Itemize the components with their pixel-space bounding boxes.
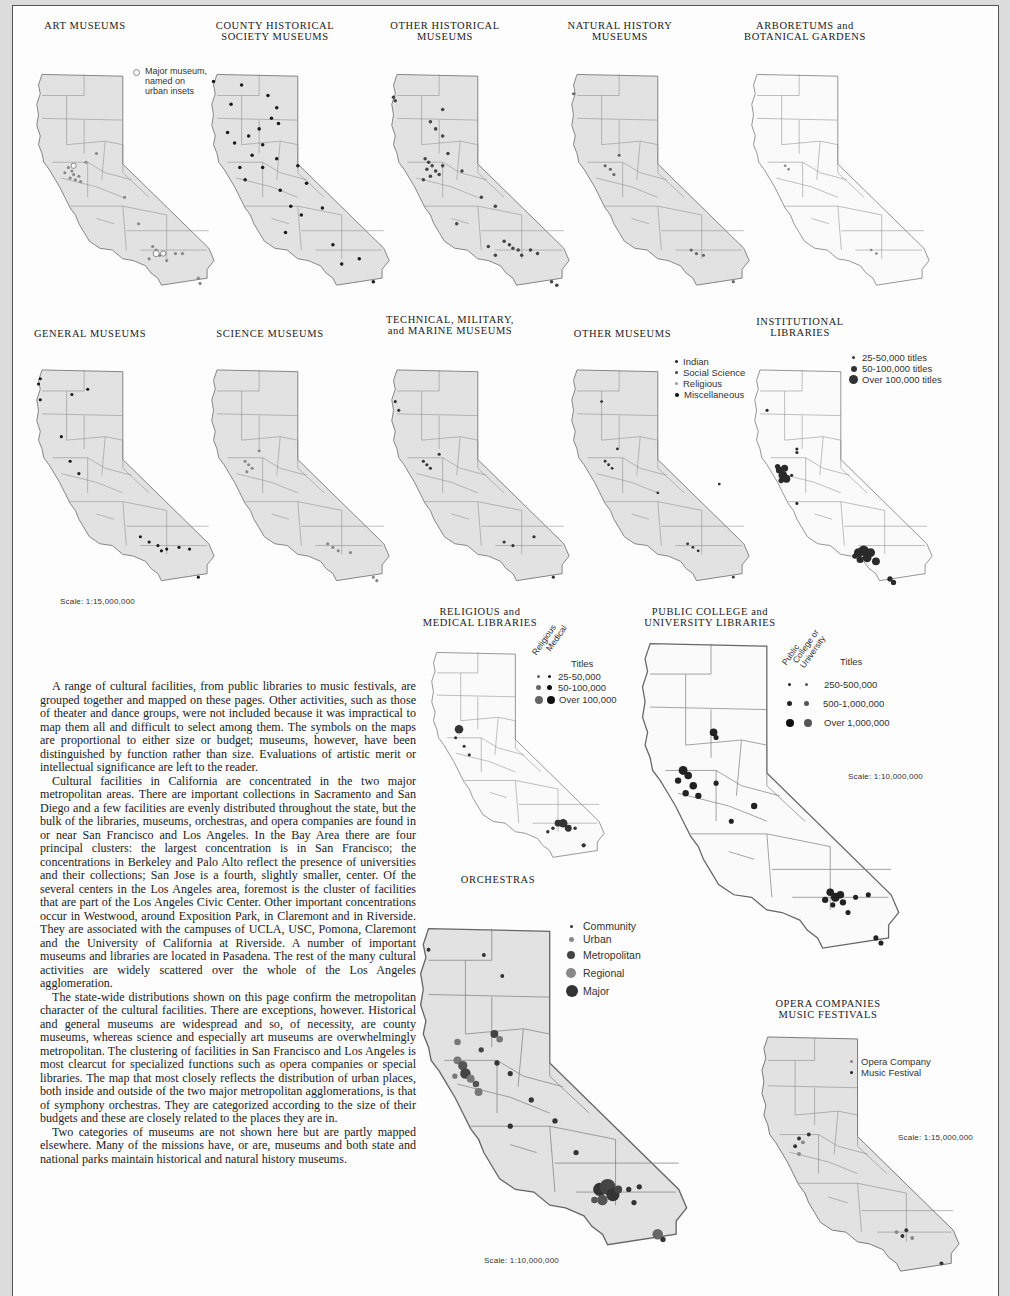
map-natural-history: NATURAL HISTORY MUSEUMS	[565, 20, 745, 320]
california-map	[418, 890, 688, 1290]
large-dot-icon	[849, 375, 858, 384]
medical-medium-dot-icon	[547, 685, 552, 690]
paragraph: Two categories of museums are not shown …	[40, 1126, 416, 1167]
social-science-dot-icon	[675, 371, 678, 374]
paragraph: A range of cultural facilities, from pub…	[40, 680, 416, 775]
california-map	[390, 42, 570, 322]
medical-small-dot-icon	[548, 675, 551, 678]
religious-medium-dot-icon	[536, 685, 541, 690]
map-art-museums: ART MUSEUMS Major museum, named on urban…	[30, 20, 210, 320]
scale-label: Scale: 1:10,000,000	[484, 1256, 559, 1265]
map-other-historical: OTHER HISTORICAL MUSEUMS	[385, 20, 565, 320]
map-opera-music-festivals: OPERA COMPANIES MUSIC FESTIVALS Opera Co…	[760, 996, 990, 1289]
legend-orchestras: Community Urban Metropolitan Regional Ma…	[566, 920, 641, 1000]
small-dot-icon	[852, 356, 855, 359]
map-county-historical: COUNTY HISTORICAL SOCIETY MUSEUMS	[205, 20, 385, 320]
scale-label: Scale: 1:15,000,000	[60, 597, 135, 606]
map-title: OTHER HISTORICAL MUSEUMS	[385, 20, 505, 42]
map-title: ARBORETUMS and BOTANICAL GARDENS	[735, 20, 875, 42]
religious-large-dot-icon	[535, 696, 543, 704]
miscellaneous-dot-icon	[675, 393, 679, 397]
map-title: OPERA COMPANIES MUSIC FESTIVALS	[758, 998, 898, 1020]
map-title: PUBLIC COLLEGE and UNIVERSITY LIBRARIES	[640, 606, 780, 628]
urban-dot-icon	[569, 937, 574, 942]
religious-dot-icon	[675, 382, 678, 385]
map-title: ART MUSEUMS	[30, 20, 140, 31]
college-small-dot-icon	[805, 683, 808, 686]
map-religious-medical-libraries: RELIGIOUS and MEDICAL LIBRARIES Religiou…	[425, 606, 635, 866]
community-dot-icon	[570, 925, 573, 928]
map-title: NATURAL HISTORY MUSEUMS	[560, 20, 680, 42]
legend-opera-music: Opera Company Music Festival	[850, 1056, 931, 1078]
california-map	[390, 340, 570, 615]
paragraph: The state-wide distributions shown on th…	[40, 991, 416, 1126]
map-title: GENERAL MUSEUMS	[30, 328, 150, 339]
california-map	[35, 340, 215, 615]
map-title: ORCHESTRAS	[438, 874, 558, 885]
map-title: COUNTY HISTORICAL SOCIETY MUSEUMS	[200, 20, 350, 42]
map-title: OTHER MUSEUMS	[565, 328, 680, 339]
california-map	[570, 42, 750, 322]
map-general-museums: GENERAL MUSEUMS Scale: 1:15,000,000	[30, 322, 210, 612]
metropolitan-dot-icon	[567, 951, 575, 959]
scale-label: Scale: 1:15,000,000	[898, 1133, 973, 1142]
legend-heading: Titles	[571, 658, 617, 669]
legend-other-museums: Indian Social Science Religious Miscella…	[675, 356, 745, 400]
indian-dot-icon	[675, 360, 678, 363]
music-festival-dot-icon	[850, 1071, 853, 1074]
map-arboretums: ARBORETUMS and BOTANICAL GARDENS	[740, 20, 940, 320]
map-title: RELIGIOUS and MEDICAL LIBRARIES	[415, 606, 545, 628]
map-title: SCIENCE MUSEUMS	[205, 328, 335, 339]
paragraph: Cultural facilities in California are co…	[40, 775, 416, 991]
legend-institutional-libraries: 25-50,000 titles 50-100,000 titles Over …	[849, 352, 942, 385]
map-institutional-libraries: INSTITUTIONAL LIBRARIES 25-50,000 titles…	[745, 314, 985, 612]
california-map	[210, 340, 390, 615]
scale-label: Scale: 1:10,000,000	[848, 772, 923, 781]
religious-small-dot-icon	[537, 675, 540, 678]
medical-large-dot-icon	[547, 696, 555, 704]
legend-heading: Titles	[840, 656, 890, 667]
map-science-museums: SCIENCE MUSEUMS	[205, 322, 385, 612]
map-technical-museums: TECHNICAL, MILITARY, and MARINE MUSEUMS	[385, 314, 565, 612]
california-map	[750, 42, 930, 322]
major-dot-icon	[566, 985, 578, 997]
map-title: TECHNICAL, MILITARY, and MARINE MUSEUMS	[375, 314, 525, 336]
map-other-museums: OTHER MUSEUMS Indian Social Science Reli…	[565, 322, 755, 612]
college-medium-dot-icon	[804, 701, 809, 706]
medium-dot-icon	[851, 366, 857, 372]
public-medium-dot-icon	[787, 701, 792, 706]
hollow-circle-icon	[133, 69, 140, 76]
regional-dot-icon	[566, 968, 576, 978]
legend-art-museums: Major museum, named on urban insets	[133, 66, 213, 96]
legend-public-college: Titles 250-500,000 500-1,000,000 Over 1,…	[786, 656, 890, 732]
college-large-dot-icon	[804, 719, 812, 727]
opera-company-dot-icon	[850, 1060, 853, 1063]
article-body: A range of cultural facilities, from pub…	[40, 680, 416, 1166]
california-map	[210, 42, 390, 322]
legend-religious-medical: Titles 25-50,000 50-100,000 Over 100,000	[535, 658, 617, 706]
public-large-dot-icon	[786, 719, 794, 727]
map-orchestras: ORCHESTRAS Community Urban Metropolitan …	[418, 870, 758, 1289]
map-title: INSTITUTIONAL LIBRARIES	[745, 316, 855, 338]
public-small-dot-icon	[788, 683, 791, 686]
